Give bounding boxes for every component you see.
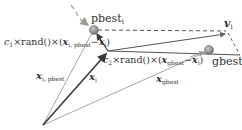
x-i-pbest-label: xi, pbest <box>35 70 65 83</box>
gbest-label: gbest <box>212 55 242 68</box>
pbest-point <box>90 26 99 35</box>
x-i-label: xi <box>88 71 97 83</box>
dashed-edge-top <box>98 30 226 31</box>
c1-term-label: c1×rand()×(xi, pbest−xi) <box>4 36 110 49</box>
pbest-label: pbesti <box>91 12 125 26</box>
gbest-point <box>205 46 214 55</box>
trajectory-arrow <box>71 5 88 25</box>
dashed-edge-right <box>228 33 240 55</box>
x-gbest-label: xgbest <box>155 73 179 86</box>
v-i-label: vi <box>224 17 233 31</box>
pso-vector-diagram: pbesti gbest vi c1×rand()×(xi, pbest−xi)… <box>0 0 242 130</box>
x-i-vector <box>43 54 106 125</box>
c2-term-label: c2×rand()×(xgbest−xi) <box>103 54 203 67</box>
